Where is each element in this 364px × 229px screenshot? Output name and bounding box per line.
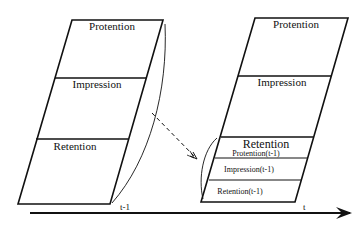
- right-sub-protention-label: Protention(t-1): [232, 149, 280, 158]
- time-label-prev: t-1: [120, 202, 130, 212]
- left-impression-label: Impression: [73, 78, 122, 90]
- right-block: Protention Impression Retention Protenti…: [201, 18, 348, 202]
- left-retention-label: Retention: [54, 140, 97, 152]
- time-consciousness-diagram: Protention Impression Retention Protenti…: [0, 0, 364, 229]
- right-sub-retention-label: Retention(t-1): [217, 187, 263, 196]
- dashed-arrow-line: [152, 113, 196, 158]
- right-sub-impression-label: Impression(t-1): [224, 165, 274, 174]
- left-block: Protention Impression Retention: [18, 20, 163, 204]
- right-impression-label: Impression: [258, 76, 307, 88]
- transition-arrow: [152, 113, 197, 159]
- time-label-now: t: [303, 202, 306, 212]
- left-block-outline: [18, 20, 163, 204]
- left-protention-label: Protention: [89, 20, 135, 32]
- right-protention-label: Protention: [273, 18, 319, 30]
- right-block-outline: [201, 18, 348, 202]
- right-retention-curve: [201, 138, 217, 199]
- left-retention-curve: [112, 24, 165, 203]
